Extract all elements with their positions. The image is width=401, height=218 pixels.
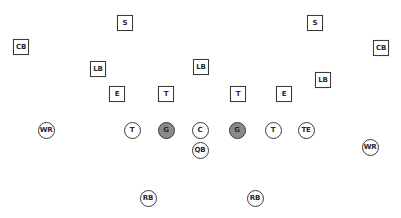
offense-guard-right[interactable]: G [229,122,246,139]
defense-linebacker-left[interactable]: LB [90,61,106,77]
offense-tight-end[interactable]: TE [298,122,315,139]
offense-running-back-left[interactable]: RB [140,190,157,207]
offense-guard-left[interactable]: G [158,122,175,139]
offense-wide-receiver-right[interactable]: WR [362,139,379,156]
offense-wide-receiver-left[interactable]: WR [38,122,55,139]
defense-cornerback-right[interactable]: CB [373,40,389,56]
offense-tackle-right[interactable]: T [265,122,282,139]
offense-tackle-left[interactable]: T [124,122,141,139]
offense-quarterback[interactable]: QB [192,142,209,159]
defense-safety-right[interactable]: S [307,15,323,31]
defense-tackle-right[interactable]: T [230,86,246,102]
offense-running-back-right[interactable]: RB [247,190,264,207]
defense-linebacker-right[interactable]: LB [315,72,331,88]
defense-safety-left[interactable]: S [117,15,133,31]
defense-tackle-left[interactable]: T [158,86,174,102]
formation-diagram: S S CB CB LB LB LB E T T E WR T G C G T … [0,0,401,218]
offense-center[interactable]: C [192,122,209,139]
defense-cornerback-left[interactable]: CB [13,39,29,55]
defense-linebacker-middle[interactable]: LB [193,59,209,75]
defense-end-right[interactable]: E [276,86,292,102]
defense-end-left[interactable]: E [109,86,125,102]
